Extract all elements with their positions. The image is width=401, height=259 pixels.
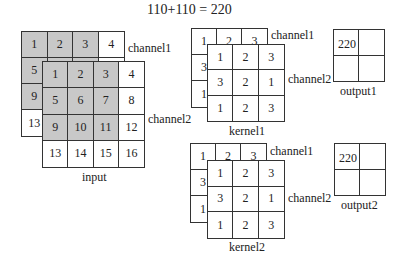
grid-cell: 4 bbox=[119, 62, 144, 88]
grid-cell: 12 bbox=[119, 115, 144, 141]
grid-cell: 220 bbox=[334, 30, 359, 56]
input-channel2-label: channel2 bbox=[148, 112, 191, 127]
grid-cell: 2 bbox=[233, 187, 258, 213]
grid-cell: 3 bbox=[259, 96, 284, 121]
grid-cell: 2 bbox=[48, 32, 74, 58]
grid-cell: 2 bbox=[233, 96, 258, 121]
grid-cell: 3 bbox=[94, 62, 119, 88]
grid-cell: 13 bbox=[43, 141, 68, 167]
output2-grid: 220 bbox=[334, 143, 386, 196]
grid-cell: 1 bbox=[208, 161, 233, 187]
grid-cell: 2 bbox=[233, 45, 258, 70]
output2-label: output2 bbox=[341, 198, 378, 213]
grid-cell: 1 bbox=[208, 96, 233, 121]
grid-cell: 1 bbox=[208, 45, 233, 70]
grid-cell: 1 bbox=[259, 187, 284, 213]
kernel2-label: kernel2 bbox=[229, 240, 265, 255]
grid-cell: 2 bbox=[233, 70, 258, 95]
grid-cell: 1 bbox=[208, 212, 233, 238]
grid-cell: 16 bbox=[119, 141, 144, 167]
kernel2-channel2-label: channel2 bbox=[288, 191, 331, 206]
grid-cell: 3 bbox=[259, 45, 284, 70]
kernel2-channel1-label: channel1 bbox=[270, 144, 313, 159]
equation-title: 110+110 = 220 bbox=[147, 2, 232, 18]
grid-cell: 1 bbox=[259, 70, 284, 95]
grid-cell: 2 bbox=[233, 161, 258, 187]
kernel1-channel2-grid: 1 2 3 3 2 1 1 2 3 bbox=[207, 44, 285, 122]
grid-cell: 3 bbox=[259, 212, 284, 238]
grid-cell bbox=[360, 170, 385, 196]
grid-cell: 8 bbox=[119, 88, 144, 114]
grid-cell: 220 bbox=[335, 144, 360, 170]
input-channel1-label: channel1 bbox=[128, 41, 171, 56]
input-channel2-grid: 1 2 3 4 5 6 7 8 9 10 11 12 13 14 15 16 bbox=[42, 61, 145, 168]
grid-cell: 2 bbox=[233, 212, 258, 238]
grid-cell: 3 bbox=[208, 187, 233, 213]
output1-label: output1 bbox=[340, 84, 377, 99]
grid-cell: 9 bbox=[43, 115, 68, 141]
grid-cell bbox=[359, 30, 384, 56]
grid-cell bbox=[335, 170, 360, 196]
grid-cell: 15 bbox=[94, 141, 119, 167]
grid-cell: 1 bbox=[43, 62, 68, 88]
grid-cell: 3 bbox=[208, 70, 233, 95]
kernel1-channel2-label: channel2 bbox=[288, 72, 331, 87]
output1-grid: 220 bbox=[333, 29, 385, 82]
grid-cell: 2 bbox=[68, 62, 93, 88]
grid-cell: 10 bbox=[68, 115, 93, 141]
grid-cell bbox=[334, 56, 359, 82]
grid-cell: 3 bbox=[73, 32, 99, 58]
kernel1-channel1-label: channel1 bbox=[271, 28, 314, 43]
grid-cell: 1 bbox=[22, 32, 48, 58]
grid-cell: 7 bbox=[94, 88, 119, 114]
input-label: input bbox=[82, 170, 107, 185]
grid-cell: 11 bbox=[94, 115, 119, 141]
grid-cell: 3 bbox=[259, 161, 284, 187]
grid-cell: 5 bbox=[43, 88, 68, 114]
grid-cell bbox=[360, 144, 385, 170]
grid-cell: 14 bbox=[68, 141, 93, 167]
grid-cell: 6 bbox=[68, 88, 93, 114]
kernel2-channel2-grid: 1 2 3 3 2 1 1 2 3 bbox=[207, 160, 285, 239]
grid-cell bbox=[359, 56, 384, 82]
grid-cell: 4 bbox=[99, 32, 125, 58]
kernel1-label: kernel1 bbox=[229, 124, 265, 139]
